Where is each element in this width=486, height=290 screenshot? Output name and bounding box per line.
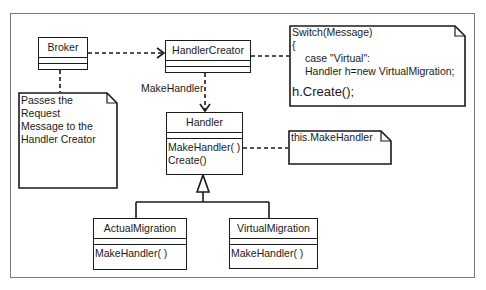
- class-virtual-migration: VirtualMigration MakeHandler( ): [229, 218, 318, 269]
- note-line: Request: [21, 107, 115, 120]
- class-operations: MakeHandler( ): [230, 245, 317, 262]
- class-name: Handler: [167, 113, 242, 133]
- note-line: {: [292, 39, 463, 52]
- class-name: ActualMigration: [94, 219, 186, 239]
- class-handler-creator: HandlerCreator: [165, 40, 251, 73]
- note-line: Handler h=new VirtualMigration;: [292, 65, 463, 78]
- class-actual-migration: ActualMigration MakeHandler( ): [93, 218, 187, 270]
- operation: MakeHandler( ): [95, 247, 185, 260]
- class-broker: Broker: [38, 37, 88, 70]
- class-operations: MakeHandler( ): [94, 245, 186, 262]
- note-line: Handler Creator: [21, 133, 115, 146]
- note-line: case "Virtual":: [292, 52, 463, 65]
- class-handler: Handler MakeHandler( ) Create(): [166, 112, 243, 175]
- operation: MakeHandler( ): [168, 141, 241, 154]
- class-name: Broker: [39, 38, 87, 58]
- note-switch: Switch(Message) { case "Virtual": Handle…: [289, 25, 466, 107]
- class-name: HandlerCreator: [166, 41, 250, 61]
- operation: Create(): [168, 154, 241, 167]
- note-line: h.Create();: [292, 85, 463, 98]
- note-line: Switch(Message): [292, 26, 463, 39]
- class-attributes: [39, 58, 87, 64]
- operation: MakeHandler( ): [231, 247, 316, 260]
- note-line: Message to the: [21, 120, 115, 133]
- class-name: VirtualMigration: [230, 219, 317, 239]
- note-this-makehandler: this.MakeHandler: [288, 130, 392, 165]
- class-operations: MakeHandler( ) Create(): [167, 139, 242, 169]
- relation-label-makehandler: MakeHandler: [141, 82, 203, 94]
- note-line: Passes the: [21, 94, 115, 107]
- note-line: this.MakeHandler: [291, 131, 389, 144]
- class-attributes: [166, 61, 250, 67]
- note-broker: Passes the Request Message to the Handle…: [18, 92, 118, 189]
